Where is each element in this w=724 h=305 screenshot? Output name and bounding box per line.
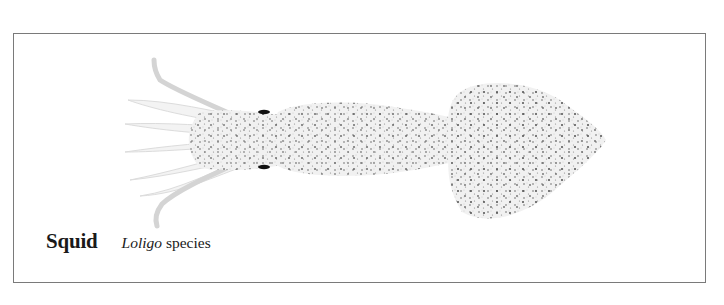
genus-name: Loligo: [122, 234, 162, 251]
common-name: Squid: [46, 229, 98, 253]
squid-eye-top: [258, 110, 270, 114]
squid-illustration: [0, 0, 724, 305]
squid-eye-bottom: [258, 165, 270, 169]
species-word: species: [166, 234, 211, 251]
caption: SquidLoligo species: [46, 229, 211, 254]
scientific-name: Loligo species: [122, 234, 211, 251]
